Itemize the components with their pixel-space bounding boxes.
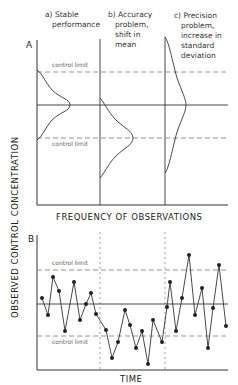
col-a-line1: a) Stable: [45, 10, 79, 19]
col-b-line1: b) Accuracy: [108, 10, 153, 19]
upper-control-limit-label-a: control limit: [52, 61, 89, 68]
col-b-line4: mean: [115, 40, 137, 49]
col-c-line5: deviation: [181, 51, 216, 60]
panel-b-label: B: [28, 234, 34, 244]
col-c-line2: problem,: [181, 21, 214, 30]
column-headers: a) Stable performance b) Accuracy proble…: [45, 10, 222, 60]
upper-control-limit-label-b: control limit: [52, 259, 89, 266]
col-c-line4: standard: [181, 41, 215, 50]
col-c-line1: c) Precision: [174, 11, 217, 20]
lower-control-limit-label-b: control limit: [52, 338, 89, 345]
panel-b-x-label: TIME: [119, 374, 142, 384]
y-axis-label: OBSERVED CONTROL CONCENTRATION: [10, 136, 20, 318]
panel-b: [37, 232, 228, 370]
col-b-line2: problem,: [115, 20, 148, 29]
col-b-line3: shift in: [115, 30, 141, 39]
col-a-line2: performance: [52, 20, 100, 29]
col-c-line3: increase in: [181, 31, 222, 40]
panel-a-x-label: FREQUENCY OF OBSERVATIONS: [56, 212, 202, 222]
lower-control-limit-label-a: control limit: [52, 140, 89, 147]
quality-control-figure: a) Stable performance b) Accuracy proble…: [0, 0, 238, 385]
panel-a-label: A: [26, 40, 33, 50]
